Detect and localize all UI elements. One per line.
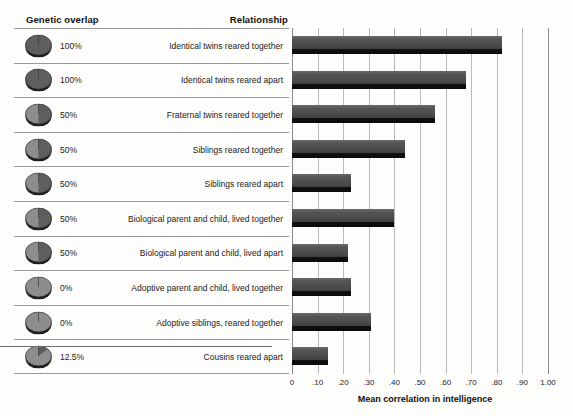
relationship-label: Identical twins reared together: [169, 41, 283, 51]
genetic-overlap-pie-icon: [25, 173, 52, 196]
x-axis-title: Mean correlation in intelligence: [289, 394, 561, 404]
x-axis-line: [0, 346, 272, 347]
genetic-overlap-pie-icon: [25, 69, 52, 92]
genetic-overlap-value: 12.5%: [60, 352, 84, 362]
genetic-overlap-pie-icon: [25, 207, 52, 230]
relationship-label: Identical twins reared apart: [181, 75, 283, 85]
genetic-overlap-value: 0%: [60, 318, 72, 328]
x-axis-tick-labels: 0.10.20.30.40.50.60.70.80.901.00: [289, 378, 561, 392]
genetic-overlap-value: 50%: [60, 110, 77, 120]
genetic-overlap-pie-icon: [25, 242, 52, 265]
relationship-label: Fraternal twins reared together: [167, 110, 283, 120]
relationship-label: Siblings reared together: [193, 145, 283, 155]
x-axis-tick-label: .80: [491, 378, 502, 387]
bar: [292, 244, 348, 262]
bar-row: [289, 339, 561, 374]
table-row: 0%Adoptive parent and child, lived toget…: [14, 270, 289, 305]
genetic-overlap-value: 100%: [60, 75, 82, 85]
bar: [292, 278, 351, 296]
genetic-overlap-value: 0%: [60, 283, 72, 293]
column-header-genetic-overlap: Genetic overlap: [26, 14, 99, 25]
genetic-overlap-value: 50%: [60, 179, 77, 189]
x-axis-tick-label: .20: [338, 378, 349, 387]
bar: [292, 140, 405, 158]
genetic-overlap-pie-icon: [25, 276, 52, 299]
bar-row: [289, 270, 561, 305]
bar-row: [289, 166, 561, 201]
relationship-label: Adoptive siblings, reared together: [156, 318, 283, 328]
genetic-overlap-pie-icon: [25, 138, 52, 161]
table-row: 100%Identical twins reared together: [14, 28, 289, 63]
genetic-overlap-value: 50%: [60, 248, 77, 258]
bar: [292, 71, 466, 89]
x-axis-tick-label: .40: [389, 378, 400, 387]
x-axis-tick-label: .30: [363, 378, 374, 387]
bar: [292, 209, 394, 227]
genetic-overlap-value: 50%: [60, 214, 77, 224]
bar-row: [289, 132, 561, 167]
bar: [292, 36, 502, 54]
genetic-overlap-value: 50%: [60, 145, 77, 155]
table-row: 0%Adoptive siblings, reared together: [14, 305, 289, 340]
x-axis-tick-label: .70: [466, 378, 477, 387]
column-header-relationship: Relationship: [196, 14, 288, 25]
table-row: 50%Siblings reared together: [14, 132, 289, 167]
genetic-overlap-value: 100%: [60, 41, 82, 51]
bar: [292, 174, 351, 192]
relationship-label: Siblings reared apart: [205, 179, 283, 189]
bar: [292, 347, 328, 365]
table-row: 12.5%Cousins reared apart: [14, 339, 289, 374]
table-row: 50%Siblings reared apart: [14, 166, 289, 201]
relationship-table: 100%Identical twins reared together 100%…: [14, 28, 289, 374]
relationship-label: Biological parent and child, lived apart: [140, 248, 283, 258]
relationship-label: Cousins reared apart: [204, 352, 283, 362]
bar-row: [289, 201, 561, 236]
x-axis-tick-label: 0: [290, 378, 294, 387]
relationship-label: Adoptive parent and child, lived togethe…: [131, 283, 283, 293]
x-axis-tick-label: .60: [440, 378, 451, 387]
genetic-overlap-pie-icon: [25, 345, 52, 368]
relationship-label: Biological parent and child, lived toget…: [128, 214, 283, 224]
genetic-overlap-pie-icon: [25, 103, 52, 126]
heritability-intelligence-figure: Genetic overlap Relationship 100%Identic…: [0, 0, 573, 416]
table-row: 50%Biological parent and child, lived to…: [14, 201, 289, 236]
table-row: 100%Identical twins reared apart: [14, 63, 289, 98]
table-row: 50%Fraternal twins reared together: [14, 97, 289, 132]
bar-row: [289, 305, 561, 340]
x-axis-tick-label: .50: [414, 378, 425, 387]
bar-row: [289, 28, 561, 63]
bar: [292, 313, 371, 331]
bar-row: [289, 97, 561, 132]
table-row: 50%Biological parent and child, lived ap…: [14, 236, 289, 271]
genetic-overlap-pie-icon: [25, 311, 52, 334]
bar-chart-plot-area: [289, 28, 561, 374]
genetic-overlap-pie-icon: [25, 34, 52, 57]
bar-row: [289, 236, 561, 271]
x-axis-tick-label: .90: [517, 378, 528, 387]
bar-row: [289, 63, 561, 98]
bar: [292, 105, 435, 123]
x-axis-tick-label: .10: [312, 378, 323, 387]
x-axis-tick-label: 1.00: [540, 378, 556, 387]
